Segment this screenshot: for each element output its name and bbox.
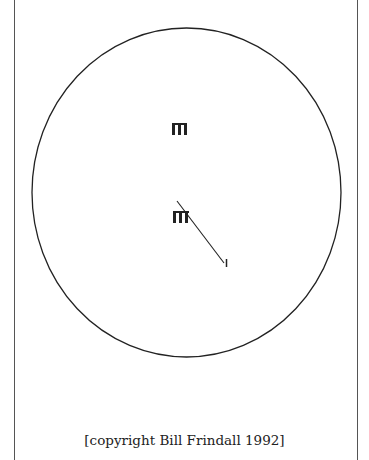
shot-line — [177, 201, 224, 263]
copyright-caption: [copyright Bill Frindall 1992] — [0, 432, 369, 448]
cricket-field-diagram — [0, 0, 369, 460]
field-boundary — [32, 28, 341, 357]
top-wicket-icon — [172, 123, 187, 135]
